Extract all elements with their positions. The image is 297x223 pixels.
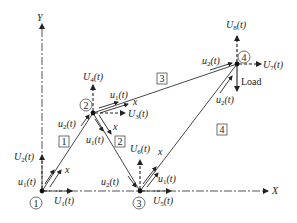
- el2-u2-label: u2(t): [101, 176, 120, 189]
- el1-x-label: x: [64, 164, 70, 175]
- el1-u1-arrow: [45, 170, 54, 184]
- node-4-label: 4: [242, 52, 247, 63]
- U8-label: U8(t): [226, 19, 247, 32]
- U7-label: U7(t): [263, 59, 284, 72]
- node-2: [91, 111, 96, 116]
- el3-u2-label: u2(t): [202, 55, 221, 68]
- element-3-label: 3: [160, 73, 165, 84]
- U5-label: U5(t): [153, 195, 174, 208]
- node-1: [40, 189, 45, 194]
- U1-label: U1(t): [54, 195, 75, 208]
- global-dof-arrows: [42, 36, 261, 191]
- el1-u1-label: u1(t): [18, 176, 37, 189]
- y-axis-label: Y: [37, 12, 44, 23]
- el4-x-label: x: [157, 146, 163, 157]
- el2-x-label: x: [112, 121, 118, 132]
- element-4-label: 4: [220, 124, 225, 135]
- el2-u1-label: u1(t): [86, 134, 105, 147]
- truss-diagram: Y X 1 2 3 4 Load: [0, 0, 297, 223]
- el1-x-arrow: [50, 170, 61, 187]
- node-1-label: 1: [34, 198, 39, 209]
- element-2-label: 2: [118, 136, 123, 147]
- el3-x-label: x: [132, 96, 138, 107]
- el4-x-arrow: [143, 167, 156, 184]
- node-2-label: 2: [84, 100, 89, 111]
- node-4: [235, 62, 240, 67]
- element-1-label: 1: [62, 136, 67, 147]
- U4-label: U4(t): [83, 71, 104, 84]
- U2-label: U2(t): [14, 151, 35, 164]
- el4-u2-label: u2(t): [216, 94, 235, 107]
- el2-u1-arrow: [95, 119, 103, 131]
- node-3: [138, 189, 143, 194]
- U6-label: U6(t): [130, 143, 151, 156]
- el4-u1-label: u1(t): [158, 173, 177, 186]
- load-label: Load: [241, 76, 262, 87]
- global-axes: Y X: [37, 12, 279, 196]
- x-axis-label: X: [271, 185, 279, 196]
- el3-x-arrow: [100, 104, 128, 113]
- el1-u2-label: u2(t): [58, 118, 77, 131]
- node-3-label: 3: [137, 198, 142, 209]
- U3-label: U3(t): [128, 108, 149, 121]
- el3-u1-label: u1(t): [110, 89, 129, 102]
- el2-x-arrow: [99, 115, 111, 134]
